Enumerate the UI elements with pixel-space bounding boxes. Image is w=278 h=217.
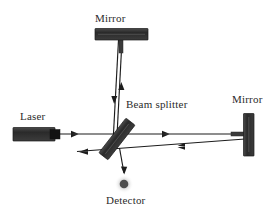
- label-mirror-top: Mirror: [95, 12, 126, 24]
- diagram-canvas: Mirror Mirror Laser Beam splitter Detect…: [0, 0, 278, 217]
- laser-body: [13, 128, 55, 142]
- arrowhead-down-from-top-mirror: [111, 96, 117, 104]
- mirror-right-mount-stem: [231, 132, 245, 136]
- label-laser: Laser: [20, 110, 45, 122]
- label-beam-splitter: Beam splitter: [126, 98, 188, 110]
- mirror-top-mount-stem: [119, 39, 123, 53]
- arrowhead-laser-right-upper: [71, 131, 79, 134]
- laser-source: [13, 128, 60, 142]
- arrowhead-to-right-mirror: [162, 134, 170, 137]
- arrowhead-laser-right: [71, 134, 79, 137]
- label-mirror-right: Mirror: [232, 93, 263, 105]
- mirror-top: [95, 29, 148, 54]
- arrowhead-return-left-lower: [178, 146, 186, 149]
- detector-sensor: [120, 180, 129, 189]
- laser-aperture: [50, 130, 60, 140]
- beam-splitter: [99, 118, 135, 160]
- label-detector: Detector: [106, 194, 145, 206]
- detector: [115, 175, 134, 194]
- arrowhead-to-right-mirror-upper: [162, 131, 170, 134]
- mirror-right: [231, 114, 254, 157]
- arrowhead-down-to-detector: [121, 167, 127, 175]
